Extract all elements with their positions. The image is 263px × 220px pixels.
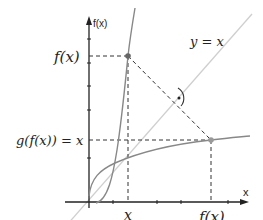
x-axis-label: x — [243, 186, 249, 198]
fx-bottom-label: f(x) — [198, 208, 225, 220]
point-on-f — [125, 53, 131, 59]
y-axis-label: f(x) — [93, 18, 107, 29]
x-axis-arrow-icon — [240, 199, 249, 205]
curve-g — [89, 136, 250, 196]
y-axis-arrow-icon — [86, 16, 92, 25]
dashed-guides — [89, 56, 211, 202]
fx-left-label: f(x) — [53, 48, 80, 66]
curve-f — [96, 8, 135, 203]
identity-line-label: y = x — [189, 34, 225, 49]
x-bottom-label: x — [124, 207, 132, 220]
point-on-g — [208, 137, 214, 143]
identity-line — [66, 14, 252, 220]
inverse-function-diagram: f(x) x y = x f(x) g(f(x)) = x x f(x) — [0, 0, 263, 220]
gfx-left-label: g(f(x)) = x — [16, 133, 84, 148]
right-angle-dot — [178, 97, 181, 100]
